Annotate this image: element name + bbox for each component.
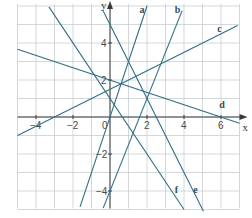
x-tick-label: 6: [218, 120, 224, 131]
y-axis-label: y: [101, 0, 107, 11]
y-tick-label: −4: [96, 186, 108, 197]
series-labels: abcdef: [140, 4, 226, 194]
line-label-d: d: [219, 99, 225, 110]
line-label-a: a: [140, 4, 145, 15]
y-axis-arrow-icon: [107, 1, 113, 9]
x-tick-label: −4: [30, 120, 42, 131]
line-b: [103, 11, 182, 208]
line-label-c: c: [217, 23, 222, 34]
line-label-b: b: [175, 4, 181, 15]
x-axis-arrow-icon: [240, 114, 248, 120]
y-tick-label: 2: [101, 75, 107, 86]
line-label-f: f: [175, 184, 179, 195]
y-tick-label: 4: [101, 38, 107, 49]
x-axis-label: x: [243, 121, 249, 133]
grid: [18, 4, 240, 210]
x-tick-label: 2: [144, 120, 150, 131]
line-label-e: e: [193, 184, 198, 195]
axes: x y: [18, 0, 249, 209]
x-tick-label: −2: [67, 120, 79, 131]
x-tick-label: 4: [181, 120, 187, 131]
line-a: [80, 6, 147, 207]
coordinate-plane: x y −4−2024642−2−4 abcdef: [0, 0, 252, 218]
line-c: [18, 25, 238, 135]
